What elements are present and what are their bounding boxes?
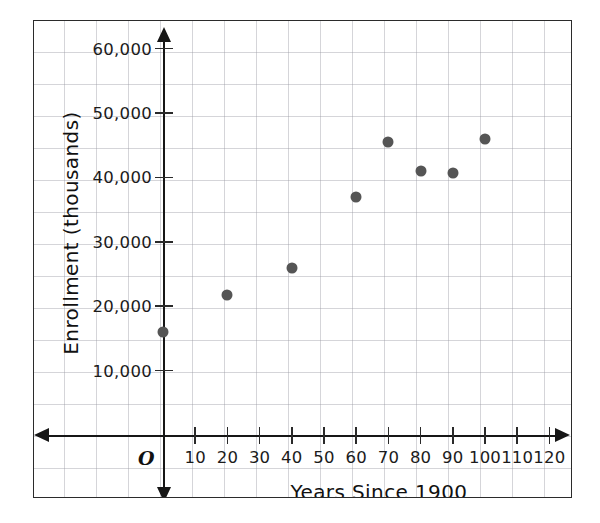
- x-axis-title: Years Since 1900: [214, 480, 544, 498]
- x-axis-tick-label: 40: [281, 448, 302, 467]
- data-point: [158, 326, 169, 337]
- origin-label: O: [138, 447, 155, 469]
- y-axis-title: Enrollment (thousands): [59, 68, 83, 398]
- x-axis-tick-label: 70: [378, 448, 399, 467]
- data-point: [286, 262, 297, 273]
- x-axis-tick-label: 120: [533, 448, 565, 467]
- x-axis-tick-label: 90: [442, 448, 463, 467]
- x-axis-tick-label: 110: [501, 448, 533, 467]
- x-axis-tick-labels: 102030405060708090100110120: [34, 21, 572, 498]
- data-point: [480, 133, 491, 144]
- x-axis-tick-label: 100: [469, 448, 501, 467]
- x-axis-tick-label: 20: [217, 448, 238, 467]
- x-axis-tick-label: 50: [313, 448, 334, 467]
- data-point: [415, 165, 426, 176]
- x-axis-tick-label: 10: [184, 448, 205, 467]
- x-axis-tick-label: 30: [249, 448, 270, 467]
- data-point: [222, 289, 233, 300]
- plot-frame: 10,00020,00030,00040,00050,00060,000 102…: [33, 20, 572, 498]
- data-point: [447, 167, 458, 178]
- data-point: [383, 136, 394, 147]
- x-axis-tick-label: 80: [410, 448, 431, 467]
- data-point: [351, 191, 362, 202]
- x-axis-tick-label: 60: [345, 448, 366, 467]
- scatter-plot-figure: 10,00020,00030,00040,00050,00060,000 102…: [0, 0, 600, 523]
